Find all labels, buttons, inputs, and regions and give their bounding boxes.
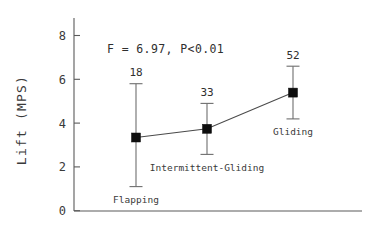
y-tick-label-0: 0 bbox=[59, 204, 66, 218]
chart-figure: 8 6 4 2 0 Lift (MPS) F = 6.97, P<0.01 bbox=[0, 0, 369, 241]
f-statistic-annotation: F = 6.97, P<0.01 bbox=[107, 42, 224, 56]
series-connector-group bbox=[136, 93, 293, 138]
y-tick-label-2: 2 bbox=[59, 160, 66, 174]
category-label-flapping: Flapping bbox=[113, 194, 159, 205]
sample-size-labels-group: 18 33 52 bbox=[129, 49, 299, 100]
category-label-gliding: Gliding bbox=[273, 126, 313, 137]
y-tick-label-8: 8 bbox=[59, 29, 66, 43]
sample-size-label-gliding: 52 bbox=[286, 49, 299, 62]
y-axis-title: Lift (MPS) bbox=[14, 75, 29, 165]
data-point-gliding bbox=[289, 88, 298, 97]
sample-size-label-intermittent-gliding: 33 bbox=[200, 86, 213, 99]
series-connector-line bbox=[136, 93, 293, 138]
stat-annotation-group: F = 6.97, P<0.01 bbox=[107, 42, 224, 56]
chart-svg: 8 6 4 2 0 Lift (MPS) F = 6.97, P<0.01 bbox=[0, 0, 369, 241]
y-tick-label-6: 6 bbox=[59, 73, 66, 87]
data-point-flapping bbox=[132, 133, 141, 142]
sample-size-label-flapping: 18 bbox=[129, 66, 142, 79]
category-labels-group: Flapping Intermittent-Gliding Gliding bbox=[113, 126, 313, 205]
y-tick-label-4: 4 bbox=[59, 117, 66, 131]
data-point-intermittent-gliding bbox=[203, 124, 212, 133]
y-ticks-group bbox=[74, 36, 80, 211]
y-axis-title-group: Lift (MPS) bbox=[14, 75, 29, 165]
category-label-intermittent-gliding: Intermittent-Gliding bbox=[150, 162, 264, 173]
y-tick-labels-group: 8 6 4 2 0 bbox=[59, 29, 66, 218]
